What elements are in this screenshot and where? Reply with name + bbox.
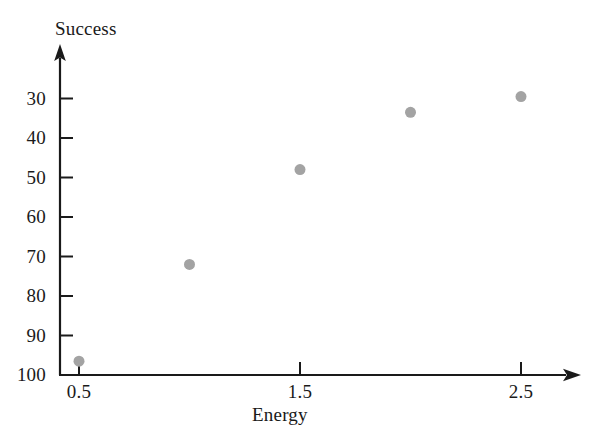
data-point[interactable]	[405, 107, 416, 118]
y-tick-label: 50	[2, 167, 46, 189]
plot-canvas	[0, 0, 604, 443]
x-tick-label: 0.5	[49, 381, 109, 403]
data-point[interactable]	[516, 91, 527, 102]
data-points-group	[74, 91, 527, 367]
y-tick-label: 90	[2, 325, 46, 347]
x-axis-title: Energy	[252, 404, 308, 426]
x-tick-label: 2.5	[491, 381, 551, 403]
y-tick-label: 70	[2, 246, 46, 268]
y-tick-label: 40	[2, 127, 46, 149]
data-point[interactable]	[184, 259, 195, 270]
data-point[interactable]	[295, 164, 306, 175]
x-tick-label: 1.5	[270, 381, 330, 403]
y-tick-label: 100	[2, 364, 46, 386]
y-tick-label: 80	[2, 285, 46, 307]
scatter-plot-figure: Success Energy 100 90 80 70 60 50 40 30 …	[0, 0, 604, 443]
data-point[interactable]	[74, 356, 85, 367]
y-tick-label: 30	[2, 88, 46, 110]
x-tick-marks	[79, 362, 521, 375]
axes-group	[54, 44, 581, 381]
y-tick-marks	[60, 99, 73, 376]
y-axis-title: Success	[55, 18, 117, 40]
y-tick-label: 60	[2, 206, 46, 228]
